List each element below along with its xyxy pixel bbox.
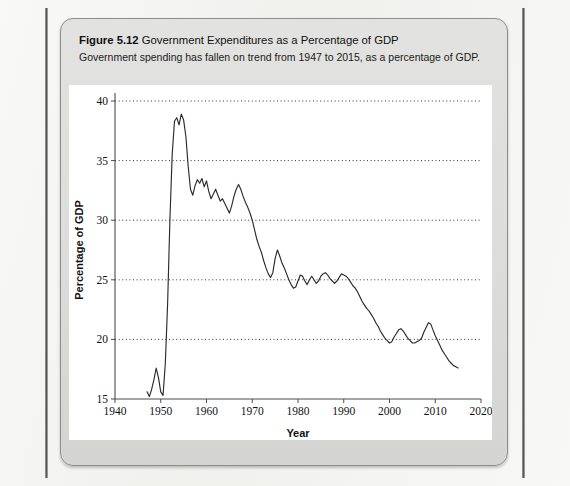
- line-chart: 152025303540 194019501960197019801990200…: [69, 85, 492, 440]
- svg-text:1960: 1960: [195, 405, 218, 417]
- axis-ticks: [111, 101, 481, 403]
- x-axis-title: Year: [286, 427, 310, 439]
- figure-title: Government Expenditures as a Percentage …: [142, 34, 399, 46]
- y-axis-title: Percentage of GDP: [73, 200, 85, 300]
- svg-text:30: 30: [97, 214, 109, 226]
- svg-text:2010: 2010: [424, 405, 447, 417]
- y-tick-labels: 152025303540: [97, 95, 109, 405]
- svg-text:1980: 1980: [287, 405, 310, 417]
- svg-text:35: 35: [97, 155, 109, 167]
- svg-text:1940: 1940: [104, 405, 127, 417]
- x-tick-labels: 194019501960197019801990200020102020: [104, 405, 493, 417]
- svg-text:2020: 2020: [470, 405, 493, 417]
- svg-text:2000: 2000: [378, 405, 401, 417]
- figure-caption-line1: Figure 5.12 Government Expenditures as a…: [79, 33, 493, 48]
- data-series-line: [147, 114, 458, 397]
- svg-text:40: 40: [97, 95, 109, 107]
- svg-text:15: 15: [97, 393, 109, 405]
- svg-text:1950: 1950: [149, 405, 172, 417]
- figure-subtitle: Government spending has fallen on trend …: [79, 50, 493, 65]
- svg-text:1970: 1970: [241, 405, 264, 417]
- svg-text:20: 20: [97, 333, 109, 345]
- svg-text:25: 25: [97, 274, 109, 286]
- figure-caption: Figure 5.12 Government Expenditures as a…: [79, 33, 493, 65]
- svg-text:1990: 1990: [332, 405, 355, 417]
- axis-lines: [115, 93, 481, 399]
- page-edge-rule-right: [522, 8, 525, 478]
- figure-container: Figure 5.12 Government Expenditures as a…: [60, 18, 508, 466]
- page-edge-rule-left: [45, 8, 48, 478]
- page-background: Figure 5.12 Government Expenditures as a…: [0, 0, 570, 486]
- figure-label: Figure 5.12: [79, 34, 139, 46]
- plot-panel: 152025303540 194019501960197019801990200…: [69, 85, 492, 440]
